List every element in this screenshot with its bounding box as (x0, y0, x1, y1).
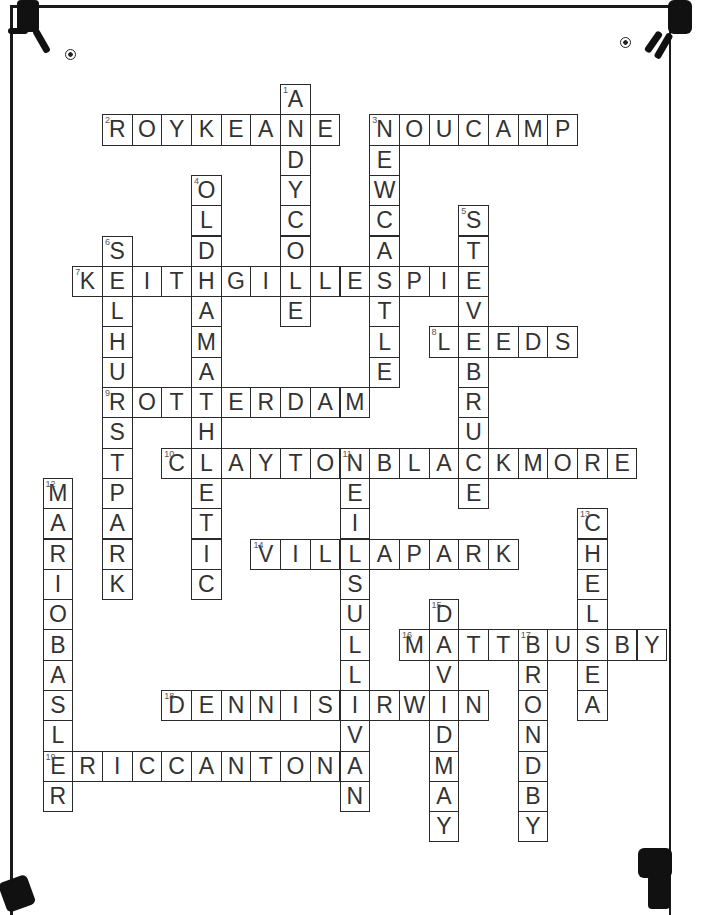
crossword-cell[interactable]: A (221, 448, 252, 479)
crossword-cell[interactable]: 12M (43, 478, 74, 509)
crossword-cell[interactable]: L (191, 448, 222, 479)
crossword-cell[interactable]: N (280, 114, 311, 145)
crossword-cell[interactable]: E (577, 660, 608, 691)
crossword-cell[interactable]: L (102, 296, 133, 327)
crossword-cell[interactable]: I (250, 266, 281, 297)
crossword-cell[interactable]: I (132, 266, 163, 297)
crossword-cell[interactable]: 14V (250, 539, 281, 570)
crossword-cell[interactable]: L (43, 720, 74, 751)
crossword-cell[interactable]: D (280, 145, 311, 176)
crossword-cell[interactable]: 16M (399, 629, 430, 660)
crossword-cell[interactable]: T (102, 448, 133, 479)
crossword-cell[interactable]: L (369, 326, 400, 357)
crossword-cell[interactable]: Y (250, 448, 281, 479)
crossword-cell[interactable]: 8L (429, 326, 460, 357)
crossword-cell[interactable]: T (458, 629, 489, 660)
crossword-cell[interactable]: C (132, 751, 163, 782)
crossword-cell[interactable]: M (340, 387, 371, 418)
crossword-cell[interactable]: D (429, 720, 460, 751)
crossword-cell[interactable]: W (369, 175, 400, 206)
crossword-cell[interactable]: P (399, 266, 430, 297)
crossword-cell[interactable]: N (250, 690, 281, 721)
crossword-cell[interactable]: C (280, 205, 311, 236)
crossword-cell[interactable]: P (399, 539, 430, 570)
crossword-cell[interactable]: Y (161, 114, 192, 145)
crossword-cell[interactable]: 7K (72, 266, 103, 297)
crossword-cell[interactable]: E (577, 569, 608, 600)
crossword-cell[interactable]: K (102, 569, 133, 600)
crossword-cell[interactable]: I (280, 539, 311, 570)
crossword-cell[interactable]: T (458, 236, 489, 267)
crossword-cell[interactable]: A (191, 751, 222, 782)
crossword-cell[interactable]: M (518, 448, 549, 479)
crossword-cell[interactable]: E (221, 114, 252, 145)
crossword-cell[interactable]: 9R (102, 387, 133, 418)
crossword-cell[interactable]: O (280, 751, 311, 782)
crossword-cell[interactable]: R (458, 387, 489, 418)
crossword-cell[interactable]: L (399, 448, 430, 479)
crossword-cell[interactable]: T (191, 508, 222, 539)
crossword-cell[interactable]: 2R (102, 114, 133, 145)
crossword-cell[interactable]: Y (518, 811, 549, 842)
crossword-cell[interactable]: B (43, 629, 74, 660)
crossword-cell[interactable]: H (191, 266, 222, 297)
crossword-cell[interactable]: E (221, 387, 252, 418)
crossword-cell[interactable]: 3N (369, 114, 400, 145)
crossword-cell[interactable]: S (369, 266, 400, 297)
crossword-cell[interactable]: E (340, 266, 371, 297)
crossword-cell[interactable]: C (161, 751, 192, 782)
crossword-cell[interactable]: P (547, 114, 578, 145)
crossword-cell[interactable]: T (191, 387, 222, 418)
crossword-cell[interactable]: O (518, 690, 549, 721)
crossword-cell[interactable]: D (280, 387, 311, 418)
crossword-cell[interactable]: E (340, 478, 371, 509)
crossword-cell[interactable]: E (191, 690, 222, 721)
crossword-cell[interactable]: E (280, 296, 311, 327)
crossword-cell[interactable]: R (369, 690, 400, 721)
crossword-cell[interactable]: A (43, 508, 74, 539)
crossword-cell[interactable]: R (43, 539, 74, 570)
crossword-cell[interactable]: I (102, 751, 133, 782)
crossword-cell[interactable]: E (458, 478, 489, 509)
crossword-cell[interactable]: E (102, 266, 133, 297)
crossword-cell[interactable]: E (191, 478, 222, 509)
crossword-cell[interactable]: U (458, 417, 489, 448)
crossword-cell[interactable]: 10C (161, 448, 192, 479)
crossword-cell[interactable]: N (518, 720, 549, 751)
crossword-cell[interactable]: A (577, 690, 608, 721)
crossword-cell[interactable]: T (280, 448, 311, 479)
crossword-cell[interactable]: S (577, 629, 608, 660)
crossword-cell[interactable]: H (191, 417, 222, 448)
crossword-cell[interactable]: R (250, 387, 281, 418)
crossword-cell[interactable]: I (429, 266, 460, 297)
crossword-cell[interactable]: R (518, 660, 549, 691)
crossword-cell[interactable]: T (161, 387, 192, 418)
crossword-cell[interactable]: N (221, 690, 252, 721)
crossword-cell[interactable]: 1A (280, 84, 311, 115)
crossword-cell[interactable]: R (43, 781, 74, 812)
crossword-cell[interactable]: 5S (458, 205, 489, 236)
crossword-cell[interactable]: C (191, 569, 222, 600)
crossword-cell[interactable]: I (340, 690, 371, 721)
crossword-cell[interactable]: A (429, 448, 460, 479)
crossword-cell[interactable]: H (102, 326, 133, 357)
crossword-cell[interactable]: B (369, 448, 400, 479)
crossword-cell[interactable]: A (429, 781, 460, 812)
crossword-cell[interactable]: H (577, 539, 608, 570)
crossword-cell[interactable]: T (369, 296, 400, 327)
crossword-cell[interactable]: E (369, 145, 400, 176)
crossword-cell[interactable]: A (250, 114, 281, 145)
crossword-cell[interactable]: O (399, 114, 430, 145)
crossword-cell[interactable]: V (458, 296, 489, 327)
crossword-cell[interactable]: S (102, 417, 133, 448)
crossword-cell[interactable]: V (340, 720, 371, 751)
crossword-cell[interactable]: E (607, 448, 638, 479)
crossword-cell[interactable]: I (43, 569, 74, 600)
crossword-cell[interactable]: A (102, 508, 133, 539)
crossword-cell[interactable]: 15D (429, 599, 460, 630)
crossword-cell[interactable]: D (518, 751, 549, 782)
crossword-cell[interactable]: R (458, 539, 489, 570)
crossword-cell[interactable]: E (310, 114, 341, 145)
crossword-cell[interactable]: A (369, 539, 400, 570)
crossword-cell[interactable]: C (458, 114, 489, 145)
